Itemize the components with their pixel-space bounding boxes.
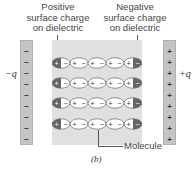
svg-text:−: −: [81, 60, 85, 67]
positive-surface-charge-label: Positive surface charge on dielectric: [22, 2, 94, 34]
minus-sign-icon: −: [21, 125, 32, 133]
svg-text:−: −: [99, 121, 103, 128]
plus-sign-icon: +: [164, 125, 175, 133]
negative-surface-charge-label: Negative surface charge on dielectric: [99, 2, 171, 34]
molecule: +−: [106, 78, 124, 88]
minus-sign-icon: −: [21, 70, 32, 78]
plus-sign-icon: +: [164, 81, 175, 89]
svg-text:−: −: [117, 80, 121, 87]
svg-text:+: +: [108, 80, 112, 87]
label-line: on dielectric: [22, 23, 94, 34]
svg-text:+: +: [126, 80, 130, 87]
svg-text:+: +: [126, 60, 130, 67]
minus-sign-icon: −: [21, 48, 32, 56]
plus-sign-icon: +: [164, 48, 175, 56]
molecule: +−: [106, 119, 124, 129]
svg-text:+: +: [72, 100, 76, 107]
svg-text:+: +: [54, 100, 58, 107]
minus-sign-icon: −: [21, 114, 32, 122]
molecule-grid: +−+−+−+−+−+−+−+−+−+−+−+−+−+−+−+−+−+−+−+−…: [52, 40, 142, 145]
minus-q-label: −q: [5, 68, 17, 79]
molecule: +−: [88, 58, 106, 68]
molecule: +−: [70, 119, 88, 129]
plus-sign-icon: +: [164, 92, 175, 100]
svg-text:−: −: [135, 100, 139, 107]
svg-text:+: +: [126, 100, 130, 107]
svg-text:−: −: [81, 100, 85, 107]
negative-plate: −−−−−−−−−: [20, 40, 33, 145]
svg-text:+: +: [54, 60, 58, 67]
svg-text:−: −: [81, 121, 85, 128]
plus-sign-icon: +: [164, 114, 175, 122]
dielectric-slab: +−+−+−+−+−+−+−+−+−+−+−+−+−+−+−+−+−+−+−+−…: [52, 40, 142, 145]
molecule: +−: [70, 58, 88, 68]
svg-text:−: −: [81, 80, 85, 87]
svg-text:+: +: [72, 80, 76, 87]
molecule: +−: [88, 78, 106, 88]
svg-text:+: +: [90, 100, 94, 107]
minus-sign-icon: −: [21, 59, 32, 67]
svg-text:+: +: [54, 121, 58, 128]
molecule-leader-horizontal: [98, 146, 123, 147]
molecule: +−: [88, 98, 106, 108]
minus-sign-icon: −: [21, 81, 32, 89]
svg-text:−: −: [63, 100, 67, 107]
molecule-leader-vertical: [98, 130, 99, 146]
svg-text:+: +: [72, 121, 76, 128]
plus-sign-icon: +: [164, 70, 175, 78]
figure-caption: (b): [91, 154, 102, 164]
svg-text:−: −: [63, 121, 67, 128]
molecule: +−: [88, 119, 106, 129]
molecule: +−: [106, 58, 124, 68]
minus-sign-icon: −: [21, 92, 32, 100]
svg-text:−: −: [99, 80, 103, 87]
svg-text:+: +: [90, 80, 94, 87]
positive-plate: +++++++++: [163, 40, 176, 145]
svg-text:−: −: [99, 100, 103, 107]
svg-text:−: −: [135, 80, 139, 87]
molecule: +−: [70, 78, 88, 88]
svg-text:−: −: [117, 121, 121, 128]
svg-text:+: +: [54, 80, 58, 87]
svg-text:+: +: [72, 60, 76, 67]
svg-text:+: +: [90, 60, 94, 67]
svg-text:+: +: [90, 121, 94, 128]
svg-text:+: +: [126, 121, 130, 128]
svg-text:−: −: [99, 60, 103, 67]
molecule: +−: [106, 98, 124, 108]
molecule: +−: [70, 98, 88, 108]
svg-text:+: +: [108, 121, 112, 128]
plus-sign-icon: +: [164, 103, 175, 111]
label-line: on dielectric: [99, 23, 171, 34]
minus-sign-icon: −: [21, 136, 32, 144]
label-line: Positive: [22, 2, 94, 13]
plus-q-label: +q: [179, 68, 191, 79]
svg-text:−: −: [117, 100, 121, 107]
minus-sign-icon: −: [21, 103, 32, 111]
svg-text:−: −: [135, 60, 139, 67]
svg-text:+: +: [108, 100, 112, 107]
plus-sign-icon: +: [164, 136, 175, 144]
plus-sign-icon: +: [164, 59, 175, 67]
molecule-label: Molecule: [124, 141, 162, 152]
svg-text:+: +: [108, 60, 112, 67]
label-line: Negative: [99, 2, 171, 13]
svg-text:−: −: [63, 60, 67, 67]
svg-text:−: −: [117, 60, 121, 67]
svg-text:−: −: [135, 121, 139, 128]
svg-text:−: −: [63, 80, 67, 87]
